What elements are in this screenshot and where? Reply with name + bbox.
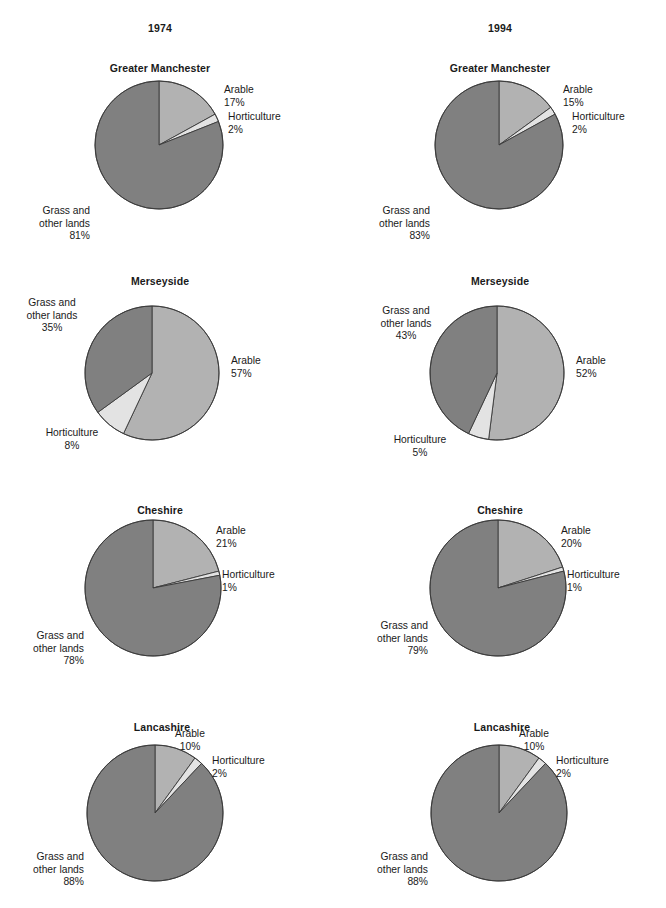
pie-label-text: Arable [110, 728, 270, 741]
pie-chart-cheshire-1974 [0, 0, 666, 908]
pie-label-grass-merseyside-1994: Grass andother lands43% [326, 305, 486, 343]
horticulture-slice [159, 114, 219, 145]
pie-label-text: Horticulture [212, 755, 265, 768]
pie-label-value: 2% [212, 768, 265, 781]
pie-label-text: Grass and [268, 620, 428, 633]
pie-title-cheshire-1994: Cheshire [410, 504, 590, 516]
pie-label-text: Arable [454, 728, 614, 741]
pie-label-value: 10% [454, 741, 614, 754]
pie-label-value: 2% [572, 124, 625, 137]
pie-label-arable-cheshire-1974: Arable21% [216, 525, 246, 550]
pie-label-text: Arable [216, 525, 246, 538]
pie-label-arable-manchester-1994: Arable15% [563, 84, 593, 109]
pie-panel-merseyside-1974: MerseysideArable57%Horticulture8%Grass a… [0, 0, 666, 908]
pie-label-arable-manchester-1974: Arable17% [224, 84, 254, 109]
pie-outline [430, 306, 564, 440]
horticulture-slice [499, 758, 546, 813]
horticulture-slice [153, 571, 220, 588]
pie-label-text: Arable [224, 84, 254, 97]
pie-label-text: Arable [561, 525, 591, 538]
pie-label-text: other lands [0, 218, 90, 231]
horticulture-slice [468, 373, 497, 439]
pie-label-text: Horticulture [572, 111, 625, 124]
pie-label-value: 21% [216, 538, 246, 551]
pie-label-text: Horticulture [556, 755, 609, 768]
pie-label-value: 10% [110, 741, 270, 754]
pie-label-text: Horticulture [567, 569, 620, 582]
pie-outline [87, 745, 223, 881]
pie-chart-lancashire-1974 [0, 0, 666, 908]
pie-label-arable-merseyside-1994: Arable52% [576, 355, 606, 380]
arable-slice [499, 81, 551, 145]
grass-slice [95, 81, 223, 209]
pie-label-value: 2% [228, 124, 281, 137]
pie-label-text: Grass and [268, 851, 428, 864]
pie-chart-cheshire-1994 [0, 0, 666, 908]
pie-label-text: other lands [268, 864, 428, 877]
pie-label-text: other lands [0, 864, 84, 877]
pie-label-arable-lancashire-1994: Arable10% [454, 728, 614, 753]
pie-panel-merseyside-1994: MerseysideArable52%Horticulture5%Grass a… [0, 0, 666, 908]
grass-slice [85, 520, 221, 656]
pie-label-text: Grass and [0, 851, 84, 864]
pie-label-value: 8% [0, 440, 152, 453]
pie-chart-manchester-1974 [0, 0, 666, 908]
arable-slice [499, 745, 539, 813]
pie-label-value: 1% [222, 582, 275, 595]
pie-label-text: Arable [231, 355, 261, 368]
pie-chart-merseyside-1974 [0, 0, 666, 908]
pie-label-horticulture-manchester-1974: Horticulture2% [228, 111, 281, 136]
pie-label-value: 57% [231, 368, 261, 381]
pie-label-value: 52% [576, 368, 606, 381]
column-header-1994: 1994 [450, 22, 550, 34]
pie-label-value: 78% [0, 655, 84, 668]
grass-slice [87, 745, 223, 881]
pie-label-value: 35% [0, 322, 132, 335]
grass-slice [430, 520, 566, 656]
arable-slice [489, 306, 564, 440]
pie-label-horticulture-cheshire-1974: Horticulture1% [222, 569, 275, 594]
pie-label-grass-cheshire-1974: Grass andother lands78% [0, 630, 84, 668]
pie-label-text: Grass and [270, 205, 430, 218]
pie-label-horticulture-manchester-1994: Horticulture2% [572, 111, 625, 136]
pie-label-value: 5% [340, 447, 500, 460]
pie-label-text: Grass and [0, 205, 90, 218]
pie-label-value: 1% [567, 582, 620, 595]
pie-title-cheshire-1974: Cheshire [70, 504, 250, 516]
pie-label-value: 15% [563, 97, 593, 110]
pie-label-text: Horticulture [0, 427, 152, 440]
pie-label-text: Horticulture [222, 569, 275, 582]
pie-label-grass-manchester-1974: Grass andother lands81% [0, 205, 90, 243]
pie-outline [430, 520, 566, 656]
pie-chart-manchester-1994 [0, 0, 666, 908]
pie-label-arable-cheshire-1994: Arable20% [561, 525, 591, 550]
pie-label-text: Arable [563, 84, 593, 97]
grass-slice [435, 81, 563, 209]
pie-panel-manchester-1994: Greater ManchesterArable15%Horticulture2… [0, 0, 666, 908]
pie-label-grass-lancashire-1994: Grass andother lands88% [268, 851, 428, 889]
pie-label-text: other lands [268, 633, 428, 646]
pie-label-horticulture-merseyside-1974: Horticulture8% [0, 427, 152, 452]
pie-label-value: 88% [0, 876, 84, 889]
pie-label-value: 2% [556, 768, 609, 781]
pie-label-text: Grass and [0, 630, 84, 643]
pie-label-value: 79% [268, 645, 428, 658]
pie-label-horticulture-lancashire-1994: Horticulture2% [556, 755, 609, 780]
pie-label-text: other lands [0, 310, 132, 323]
horticulture-slice [155, 758, 202, 813]
pie-label-value: 81% [0, 230, 90, 243]
pie-label-horticulture-cheshire-1994: Horticulture1% [567, 569, 620, 594]
pie-chart-figure: 1974 1994 Greater ManchesterArable17%Hor… [0, 0, 666, 908]
pie-label-text: Horticulture [340, 434, 500, 447]
pie-title-merseyside-1994: Merseyside [410, 275, 590, 287]
pie-label-value: 20% [561, 538, 591, 551]
pie-label-arable-merseyside-1974: Arable57% [231, 355, 261, 380]
pie-label-value: 83% [270, 230, 430, 243]
pie-label-value: 43% [326, 330, 486, 343]
pie-label-arable-lancashire-1974: Arable10% [110, 728, 270, 753]
pie-title-lancashire-1994: Lancashire [412, 721, 592, 733]
pie-panel-cheshire-1994: CheshireArable20%Horticulture1%Grass and… [0, 0, 666, 908]
pie-outline [85, 306, 219, 440]
pie-label-grass-manchester-1994: Grass andother lands83% [270, 205, 430, 243]
pie-chart-lancashire-1994 [0, 0, 666, 908]
